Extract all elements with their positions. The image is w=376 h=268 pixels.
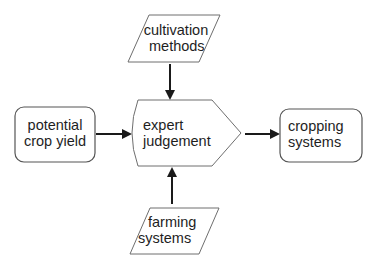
cultivation-methods-line2: methods bbox=[140, 38, 212, 54]
cultivation-methods-line1: cultivation bbox=[140, 22, 212, 38]
farming-systems-line1: farming bbox=[138, 214, 210, 230]
cultivation-methods-label: cultivation methods bbox=[140, 22, 212, 54]
expert-judgement-line2: judgement bbox=[143, 133, 223, 149]
potential-crop-yield-line2: crop yield bbox=[15, 133, 95, 149]
cropping-systems-line2: systems bbox=[288, 134, 358, 150]
potential-crop-yield-label: potential crop yield bbox=[15, 117, 95, 149]
expert-judgement-label: expert judgement bbox=[143, 117, 223, 149]
cropping-systems-label: cropping systems bbox=[288, 118, 358, 150]
cropping-systems-line1: cropping bbox=[288, 118, 358, 134]
potential-crop-yield-line1: potential bbox=[15, 117, 95, 133]
farming-systems-line2: systems bbox=[138, 230, 210, 246]
farming-systems-label: farming systems bbox=[138, 214, 210, 246]
expert-judgement-line1: expert bbox=[143, 117, 223, 133]
